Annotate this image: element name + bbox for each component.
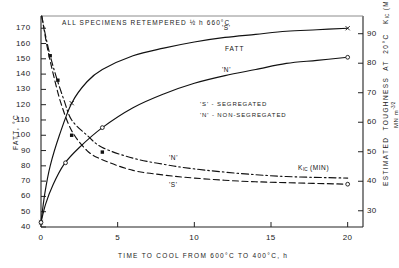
annotation-retempering-note: ALL SPECIMENS RETEMPERED ½ h 660°C [62, 19, 230, 26]
y2-tick-label: 50 [367, 147, 377, 156]
x-tick-label: 5 [115, 233, 120, 242]
data-series-layer [39, 16, 350, 225]
bottom-axis-ticks [41, 222, 348, 227]
y-tick-label: 150 [16, 54, 31, 63]
y-tick-label: 50 [21, 207, 31, 216]
y-axis-title: FATT, °C [12, 114, 19, 150]
y-tick-label: 170 [16, 23, 31, 32]
series-label-n-fatt: 'N' [222, 66, 231, 73]
series-label-s-kic: 'S' [169, 181, 178, 188]
x-tick-label: 0 [39, 233, 44, 242]
y2-axis-title: ESTIMATED TOUGHNESS AT 20°C KIC (MINIMUM… [382, 0, 390, 186]
y-tick-label: 130 [16, 84, 31, 93]
y2-axis-units: MN m-3/2 [391, 102, 399, 128]
x-tick-label: 20 [343, 233, 353, 242]
series-label-fatt-group: FATT [225, 45, 244, 52]
y-tick-label: 40 [21, 222, 31, 231]
data-point [70, 101, 74, 105]
data-point [346, 182, 350, 186]
right-axis-ticks [358, 34, 363, 211]
y2-tick-label: 40 [367, 176, 377, 185]
data-point [70, 134, 73, 137]
y2-tick-label: 90 [367, 29, 377, 38]
y-tick-label: 90 [21, 146, 31, 155]
data-point [346, 55, 350, 59]
x-axis-title: TIME TO COOL FROM 600°C TO 400°C, h [118, 252, 288, 259]
y-tick-label: 60 [21, 191, 31, 200]
series--n-k-ic-minimum [42, 16, 348, 178]
x-tick-label: 10 [189, 233, 199, 242]
series-label-n-kic: 'N' [169, 154, 178, 161]
series-label-s-fatt: 'S' [222, 24, 231, 31]
series--n-fatt [39, 55, 349, 224]
x-tick-label: 15 [266, 233, 276, 242]
legend-entry-segregated: 'S' - SEGREGATED [200, 101, 267, 107]
y-tick-label: 140 [16, 69, 31, 78]
y-tick-label: 80 [21, 161, 31, 170]
y-tick-label: 160 [16, 39, 31, 48]
y-tick-label: 120 [16, 100, 31, 109]
data-point [56, 79, 59, 82]
kic-tail: (MIN) [308, 164, 330, 171]
y2-tick-label: 60 [367, 117, 377, 126]
data-point [64, 161, 68, 165]
data-point [100, 126, 104, 130]
legend-entry-non-segregated: 'N' - NON-SEGREGATED [200, 112, 287, 118]
data-point [101, 150, 104, 153]
y2-tick-label: 80 [367, 58, 377, 67]
y-tick-label: 70 [21, 176, 31, 185]
y2-tick-label: 70 [367, 88, 377, 97]
data-point [39, 221, 43, 225]
annotation-kic-min: KIC (MIN) [298, 164, 329, 172]
left-axis-ticks [41, 28, 46, 227]
series--s-fatt [39, 26, 350, 224]
y2-tick-label: 30 [367, 206, 377, 215]
axes-frame [41, 16, 363, 227]
